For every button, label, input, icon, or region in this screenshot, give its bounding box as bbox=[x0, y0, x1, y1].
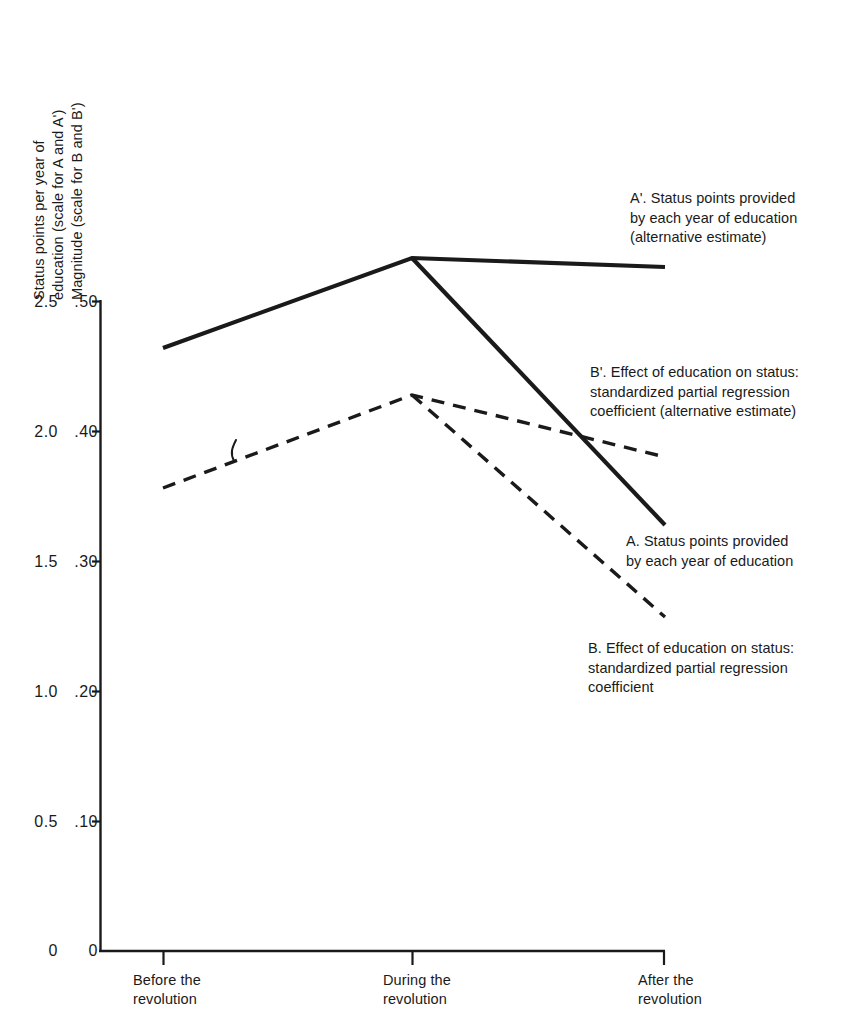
series-annotation-b-line2: standardized partial regression bbox=[588, 659, 794, 679]
x-tick-label-during-line2: revolution bbox=[383, 990, 451, 1009]
series-annotation-a-prime-line3: (alternative estimate) bbox=[630, 228, 797, 248]
series-annotation-a: A. Status points provided by each year o… bbox=[626, 532, 793, 571]
x-tick-label-during-line1: During the bbox=[383, 971, 451, 990]
series-annotation-a-prime-line2: by each year of education bbox=[630, 209, 797, 229]
x-tick-label-before-line1: Before the bbox=[133, 971, 201, 990]
series-annotation-a-prime: A'. Status points provided by each year … bbox=[630, 189, 797, 248]
x-tick-label-before: Before the revolution bbox=[133, 971, 201, 1009]
series-annotation-b: B. Effect of education on status: standa… bbox=[588, 639, 794, 698]
x-tick-label-after-line2: revolution bbox=[638, 990, 702, 1009]
series-annotation-b-line3: coefficient bbox=[588, 678, 794, 698]
hook-mark-icon bbox=[232, 440, 236, 461]
series-annotation-b-line1: B. Effect of education on status: bbox=[588, 639, 794, 659]
series-annotation-a-line1: A. Status points provided bbox=[626, 532, 793, 552]
series-annotation-b-prime-line2: standardized partial regression bbox=[590, 383, 799, 403]
x-tick-label-after: After the revolution bbox=[638, 971, 702, 1009]
series-annotation-b-prime-line3: coefficient (alternative estimate) bbox=[590, 402, 799, 422]
series-annotation-a-prime-line1: A'. Status points provided bbox=[630, 189, 797, 209]
series-annotation-b-prime-line1: B'. Effect of education on status: bbox=[590, 363, 799, 383]
plot-area bbox=[0, 0, 857, 1029]
series-line-b bbox=[412, 395, 665, 617]
x-tick-label-before-line2: revolution bbox=[133, 990, 201, 1009]
chart-figure: Status points per year of education (sca… bbox=[0, 0, 857, 1029]
x-tick-label-after-line1: After the bbox=[638, 971, 702, 990]
series-line-a-prime bbox=[163, 258, 665, 348]
series-annotation-b-prime: B'. Effect of education on status: stand… bbox=[590, 363, 799, 422]
x-tick-label-during: During the revolution bbox=[383, 971, 451, 1009]
series-annotation-a-line2: by each year of education bbox=[626, 552, 793, 572]
